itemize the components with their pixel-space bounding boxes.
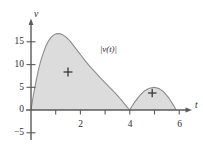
y-tick-label-5: 5 [6, 83, 24, 93]
y-tick-label-minus-5: −5 [3, 128, 24, 138]
x-tick-label-4: 4 [124, 120, 137, 130]
x-axis-name: t [195, 101, 198, 111]
velocity-magnitude-figure: v t 15 10 5 0 −5 2 4 6 |v(t)| [0, 0, 203, 144]
y-axis-arrowhead [29, 19, 34, 26]
y-tick-label-15: 15 [6, 37, 24, 47]
x-tick-label-2: 2 [74, 120, 87, 130]
y-axis-name: v [34, 10, 38, 20]
y-tick-label-0: 0 [6, 105, 24, 115]
curve-label-abs-v-of-t: |v(t)| [100, 45, 117, 54]
y-tick-label-10: 10 [6, 60, 24, 70]
x-axis-arrowhead [186, 108, 193, 113]
x-tick-label-6: 6 [173, 120, 186, 130]
